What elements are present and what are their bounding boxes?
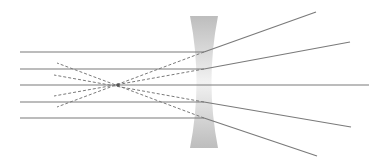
refracted-ray: [204, 42, 350, 69]
virtual-ray: [54, 75, 204, 102]
concave-lens: [190, 16, 218, 148]
focal-point-dot: [116, 83, 120, 87]
refracted-rays: [204, 12, 369, 156]
refracted-ray: [204, 118, 317, 156]
incident-rays: [20, 52, 204, 118]
virtual-ray: [54, 69, 204, 96]
refracted-ray: [204, 12, 316, 52]
diagram-canvas: [0, 0, 385, 164]
virtual-ray: [57, 63, 204, 118]
lens-body: [190, 16, 218, 148]
focal-point: [116, 83, 120, 87]
refracted-ray: [204, 102, 351, 127]
lens-diagram: Diverging (concave) lens ray diagram: [0, 0, 385, 164]
